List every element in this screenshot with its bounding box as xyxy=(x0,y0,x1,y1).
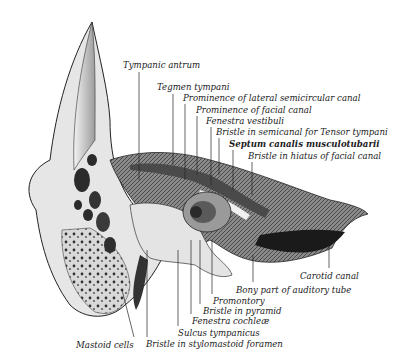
label-bony-part-auditory-tube: Bony part of auditory tube xyxy=(236,286,351,295)
label-bristle-hiatus-facial-canal: Bristle in hiatus of facial canal xyxy=(248,152,381,161)
label-tympanic-antrum: Tympanic antrum xyxy=(123,61,200,70)
label-prominence-facial-canal: Prominence of facial canal xyxy=(196,106,312,115)
label-septum-canalis-musculotubarii: Septum canalis musculotubarii xyxy=(229,140,379,149)
label-promontory: Promontory xyxy=(213,297,265,306)
label-fenestra-vestibuli: Fenestra vestibuli xyxy=(206,117,284,126)
label-sulcus-tympanicus: Sulcus tympanicus xyxy=(178,329,260,338)
label-carotid-canal: Carotid canal xyxy=(300,272,359,281)
temporal-bone-illustration xyxy=(0,0,401,359)
label-bristle-stylomastoid-foramen: Bristle in stylomastoid foramen xyxy=(146,340,283,349)
label-prominence-lateral-semicircular-canal: Prominence of lateral semicircular canal xyxy=(183,94,360,103)
label-bristle-semicanal-tensor-tympani: Bristle in semicanal for Tensor tympani xyxy=(216,128,388,137)
label-fenestra-cochleae: Fenestra cochleæ xyxy=(192,317,269,326)
label-mastoid-cells: Mastoid cells xyxy=(76,341,134,350)
label-bristle-in-pyramid: Bristle in pyramid xyxy=(203,307,282,316)
label-tegmen-tympani: Tegmen tympani xyxy=(157,83,230,92)
